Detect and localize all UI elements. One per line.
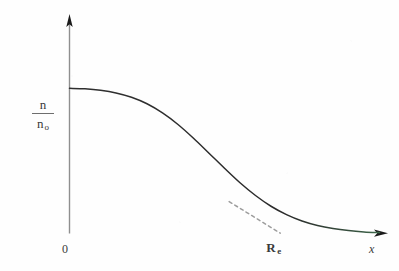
x-axis-label: x — [369, 243, 374, 255]
re-marker-subscript: e — [276, 246, 282, 256]
y-axis-numerator: n — [26, 98, 60, 112]
re-marker-base: R — [266, 240, 276, 255]
fraction-bar — [32, 113, 54, 114]
origin-label: 0 — [62, 243, 68, 255]
y-axis-denominator-subscript: o — [44, 122, 50, 132]
density-profile-figure: n no 0 Re x — [0, 0, 399, 271]
density-profile-curve — [70, 88, 380, 232]
y-axis-denominator-base: n — [37, 116, 44, 131]
re-marker-label: Re — [266, 241, 281, 256]
y-axis-label: n no — [26, 98, 60, 132]
tangent-dashed-line — [229, 202, 280, 234]
y-axis-denominator: no — [26, 116, 60, 132]
plot-canvas — [0, 0, 399, 271]
